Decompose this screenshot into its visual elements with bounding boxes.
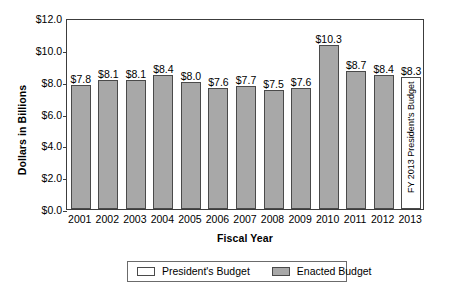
y-tick-label: $2.0 (18, 173, 62, 183)
legend-swatch-icon-president (137, 267, 155, 276)
bar-chart: Dollars in Billions $0.0$2.0$4.0$6.0$8.0… (0, 0, 451, 295)
bar-value-label-2009: $7.6 (281, 77, 321, 88)
legend-entry-enacted: Enacted Budget (272, 266, 372, 277)
bar-2003 (126, 80, 146, 209)
bar-2001 (71, 85, 91, 209)
legend-entry-president: President's Budget (137, 266, 250, 277)
y-tick-mark (63, 211, 67, 212)
chart-legend: President's BudgetEnacted Budget (127, 261, 347, 282)
bar-2008 (264, 90, 284, 209)
bar-2004 (153, 75, 173, 209)
y-tick-label: $12.0 (18, 14, 62, 24)
y-tick-label: $6.0 (18, 110, 62, 120)
y-tick-mark (63, 116, 67, 117)
bar-2009 (291, 88, 311, 209)
y-tick-label: $0.0 (18, 205, 62, 215)
bar-2007 (236, 86, 256, 209)
bar-annotation-2013: FY 2013 President's Budget (407, 81, 416, 193)
bar-2006 (208, 88, 228, 209)
legend-label: President's Budget (162, 266, 250, 277)
bar-2002 (98, 80, 118, 209)
y-tick-mark (63, 179, 67, 180)
legend-label: Enacted Budget (297, 266, 372, 277)
y-tick-mark (63, 147, 67, 148)
plot-area: $7.8$8.1$8.1$8.4$8.0$7.6$7.7$7.5$7.6$10.… (66, 19, 424, 210)
x-axis-tick-labels: 2001200220032004200520062007200820092010… (66, 213, 424, 229)
legend-swatch-icon-enacted (272, 267, 290, 276)
bar-2005 (181, 82, 201, 209)
y-tick-label: $4.0 (18, 141, 62, 151)
bar-value-label-2010: $10.3 (309, 34, 349, 45)
x-axis-title: Fiscal Year (66, 232, 424, 244)
x-tick-label-2013: 2013 (390, 213, 430, 225)
bar-2012 (374, 75, 394, 209)
bar-2011 (346, 71, 366, 209)
y-tick-label: $8.0 (18, 78, 62, 88)
bar-value-label-2013: $8.3 (391, 66, 431, 77)
bar-2013: FY 2013 President's Budget (401, 77, 421, 209)
y-axis-tick-labels: $0.0$2.0$4.0$6.0$8.0$10.0$12.0 (14, 0, 62, 295)
y-tick-mark (63, 52, 67, 53)
y-tick-label: $10.0 (18, 46, 62, 56)
